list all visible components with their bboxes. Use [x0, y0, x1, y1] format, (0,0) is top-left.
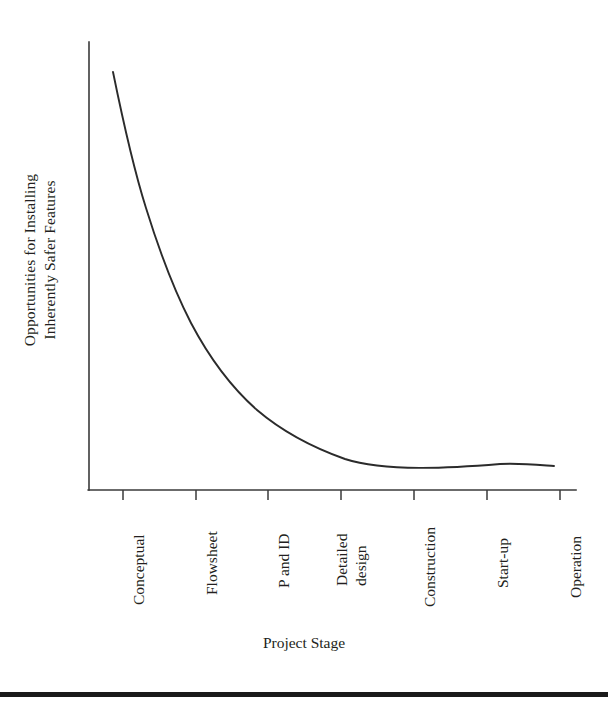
x-tick-label-construction-line-1: Construction	[421, 527, 438, 607]
x-tick-label-p-and-id: P and ID	[275, 533, 292, 588]
x-tick-label-start-up-line-1: Start-up	[494, 538, 511, 588]
x-tick-label-construction: Construction	[421, 527, 438, 607]
x-tick-label-detailed-design-line-2: design	[351, 533, 370, 586]
x-tick-label-conceptual: Conceptual	[130, 534, 147, 605]
x-tick-label-detailed-design-line-1: Detailed	[332, 533, 351, 586]
x-tick-label-flowsheet-line-1: Flowsheet	[203, 531, 220, 595]
x-tick-label-detailed-design: Detailed design	[332, 533, 370, 586]
figure-container: Opportunities for Installing Inherently …	[0, 0, 608, 709]
x-tick-label-start-up: Start-up	[494, 538, 511, 588]
x-tick-label-p-and-id-line-1: P and ID	[275, 533, 292, 588]
x-tick-label-operation-line-1: Operation	[567, 536, 584, 598]
x-axis-tick-labels: Conceptual Flowsheet P and ID Detailed d…	[0, 0, 608, 709]
x-tick-label-flowsheet: Flowsheet	[203, 531, 220, 595]
x-tick-label-operation: Operation	[567, 536, 584, 598]
x-axis-title: Project Stage	[0, 634, 608, 652]
bottom-divider	[0, 692, 608, 697]
x-tick-label-conceptual-line-1: Conceptual	[130, 534, 147, 605]
